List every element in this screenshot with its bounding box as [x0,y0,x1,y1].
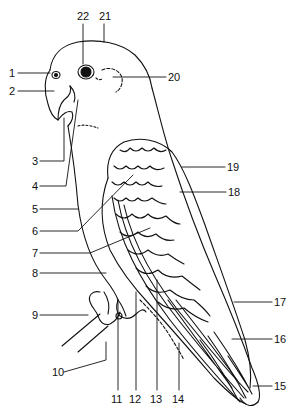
label-13: 13 [150,394,162,405]
label-4: 4 [32,181,38,192]
breast-outline [68,126,118,300]
label-14: 14 [172,394,184,405]
head-outline [50,41,152,88]
label-10: 10 [52,367,64,378]
beak-lower [58,111,73,126]
tail-tip [240,398,258,405]
ear-coverts [102,68,122,92]
label-6: 6 [32,226,38,237]
label-20: 20 [168,72,180,83]
label-19: 19 [227,162,239,173]
label-16: 16 [274,334,286,345]
label-5: 5 [32,204,38,215]
label-15: 15 [274,381,286,392]
lesser-coverts [112,148,166,204]
parrot-anatomy-drawing [0,0,293,420]
wing-leading-edge [102,178,246,404]
label-2: 2 [9,86,15,97]
label-18: 18 [228,187,240,198]
label-17: 17 [274,297,286,308]
back-outline [152,88,260,402]
label-7: 7 [32,248,38,259]
label-1: 1 [9,68,15,79]
label-3: 3 [32,156,38,167]
eye [81,67,91,77]
label-22: 22 [77,11,89,22]
label-9: 9 [32,310,38,321]
label-12: 12 [129,394,141,405]
primary-feathers [112,196,248,402]
thigh [117,300,146,318]
label-8: 8 [32,268,38,279]
median-coverts [116,214,184,264]
label-21: 21 [99,11,111,22]
perch [62,314,108,352]
label-11: 11 [111,394,122,405]
